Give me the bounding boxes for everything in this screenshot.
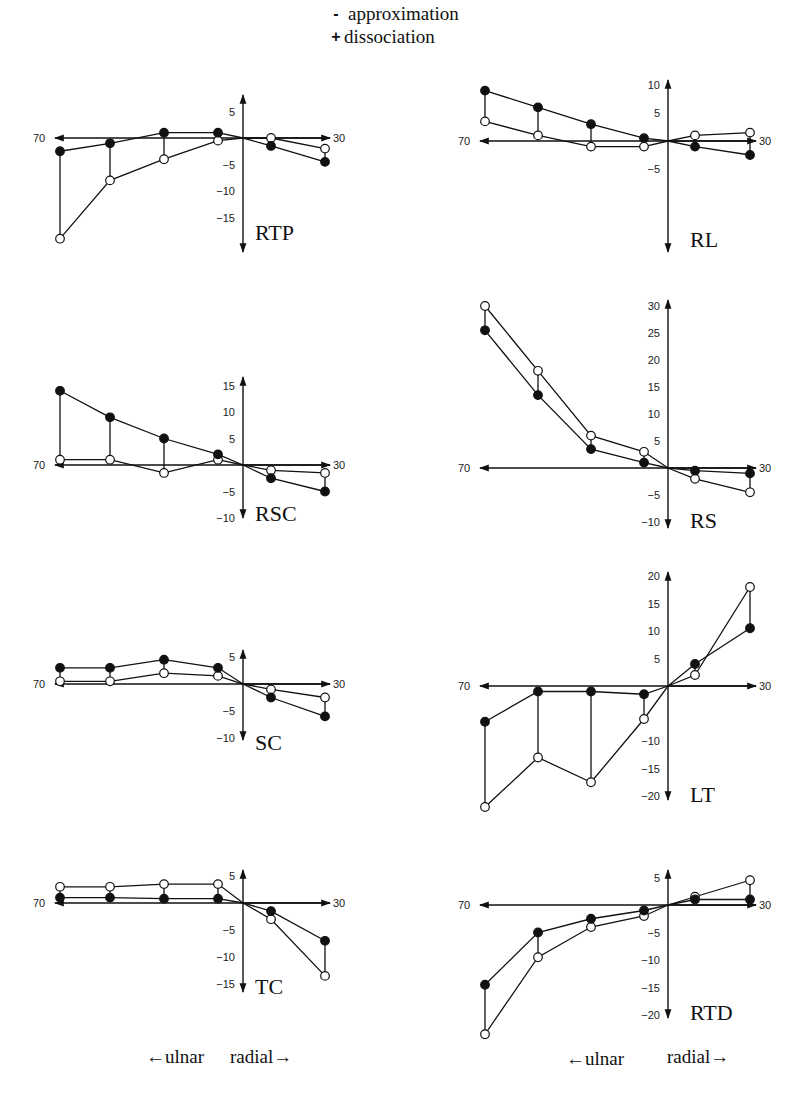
panel-rs: 703030252015105−5−10RS	[458, 300, 771, 533]
open-circle-marker	[160, 155, 169, 164]
panel-title: RTP	[255, 220, 294, 245]
figure-canvas: 70305−5−10−15RTP7030105−5RL703015105−5−1…	[0, 0, 807, 1096]
x-axis-label-left: 70	[33, 678, 45, 690]
y-tick-label: −5	[647, 489, 660, 501]
filled-circle-marker	[481, 980, 490, 989]
open-circle-marker	[534, 753, 543, 762]
y-tick-label: −10	[641, 954, 660, 966]
y-tick-label: 5	[654, 653, 660, 665]
y-tick-label: −15	[216, 978, 235, 990]
open-circle-marker	[481, 1030, 490, 1039]
series-line-approximation	[60, 460, 325, 473]
filled-circle-marker	[106, 139, 115, 148]
y-tick-label: −10	[216, 185, 235, 197]
open-circle-marker	[534, 367, 543, 376]
panel-title: RL	[690, 227, 718, 252]
y-tick-label: 5	[229, 433, 235, 445]
direction-ulnar-right: ←ulnar	[566, 1048, 624, 1070]
y-tick-label: −15	[216, 212, 235, 224]
filled-circle-marker	[106, 413, 115, 422]
y-tick-label: 15	[648, 598, 660, 610]
filled-circle-marker	[214, 450, 223, 459]
open-circle-marker	[56, 234, 65, 243]
direction-ulnar-left: ←ulnar	[146, 1046, 204, 1068]
y-tick-label: −5	[222, 924, 235, 936]
y-tick-label: −10	[641, 735, 660, 747]
filled-circle-marker	[267, 693, 276, 702]
y-tick-label: 15	[648, 381, 660, 393]
open-circle-marker	[160, 469, 169, 478]
y-tick-label: 30	[648, 300, 660, 312]
open-circle-marker	[321, 144, 330, 153]
filled-circle-marker	[106, 664, 115, 673]
filled-circle-marker	[267, 474, 276, 483]
open-circle-marker	[691, 475, 700, 484]
open-circle-marker	[267, 915, 276, 924]
legend-label-dissociation: dissociation	[344, 25, 435, 48]
open-circle-marker	[746, 128, 755, 137]
filled-circle-marker	[534, 103, 543, 112]
panel-title: RSC	[255, 501, 297, 526]
filled-circle-marker	[746, 469, 755, 478]
filled-circle-marker	[321, 487, 330, 496]
filled-circle-marker	[534, 391, 543, 400]
filled-circle-marker	[534, 928, 543, 937]
open-circle-marker	[321, 693, 330, 702]
panel-lt: 70302015105−10−15−20LT	[458, 570, 771, 811]
filled-circle-marker	[56, 893, 65, 902]
filled-circle-marker	[321, 712, 330, 721]
y-tick-label: 20	[648, 354, 660, 366]
panel-title: LT	[690, 782, 715, 807]
open-circle-marker	[746, 876, 755, 885]
filled-circle-marker	[481, 717, 490, 726]
filled-circle-marker	[587, 687, 596, 696]
filled-circle-marker	[534, 687, 543, 696]
open-circle-marker	[106, 883, 115, 892]
filled-circle-marker	[640, 134, 649, 143]
open-circle-marker	[106, 455, 115, 464]
filled-circle-marker	[214, 894, 223, 903]
legend-label-approximation: approximation	[348, 2, 459, 25]
open-circle-marker	[106, 677, 115, 686]
filled-circle-marker	[746, 151, 755, 160]
y-tick-label: −5	[647, 163, 660, 175]
x-axis-label-right: 30	[759, 462, 771, 474]
y-tick-label: 5	[229, 651, 235, 663]
x-axis-label-left: 70	[33, 459, 45, 471]
series-line-dissociation	[485, 91, 750, 155]
arrow-left-icon: ←	[566, 1048, 585, 1069]
y-tick-label: 25	[648, 327, 660, 339]
open-circle-marker	[267, 685, 276, 694]
filled-circle-marker	[640, 690, 649, 699]
panel-rsc: 703015105−5−10RSC	[33, 377, 345, 526]
filled-circle-marker	[640, 458, 649, 467]
y-tick-label: 5	[229, 106, 235, 118]
filled-circle-marker	[481, 326, 490, 335]
panel-rtp: 70305−5−10−15RTP	[33, 95, 345, 252]
filled-circle-marker	[321, 158, 330, 167]
series-line-approximation	[485, 306, 750, 492]
filled-circle-marker	[214, 128, 223, 137]
x-axis-label-right: 30	[759, 135, 771, 147]
filled-circle-marker	[321, 937, 330, 946]
filled-circle-marker	[106, 893, 115, 902]
open-circle-marker	[160, 669, 169, 678]
y-tick-label: −10	[216, 951, 235, 963]
filled-circle-marker	[746, 624, 755, 633]
y-tick-label: 10	[648, 408, 660, 420]
filled-circle-marker	[691, 142, 700, 151]
y-tick-label: −5	[222, 159, 235, 171]
arrow-right-icon: →	[710, 1046, 729, 1067]
filled-circle-marker	[481, 86, 490, 95]
y-tick-label: −10	[216, 732, 235, 744]
open-circle-marker	[56, 455, 65, 464]
open-circle-marker	[214, 136, 223, 145]
open-circle-marker	[106, 176, 115, 185]
open-circle-marker	[267, 466, 276, 475]
filled-circle-marker	[640, 906, 649, 915]
open-circle-marker	[587, 923, 596, 932]
y-tick-label: −10	[216, 512, 235, 524]
panel-rl: 7030105−5RL	[458, 79, 771, 252]
open-circle-marker	[534, 953, 543, 962]
panel-title: RTD	[690, 1000, 733, 1025]
